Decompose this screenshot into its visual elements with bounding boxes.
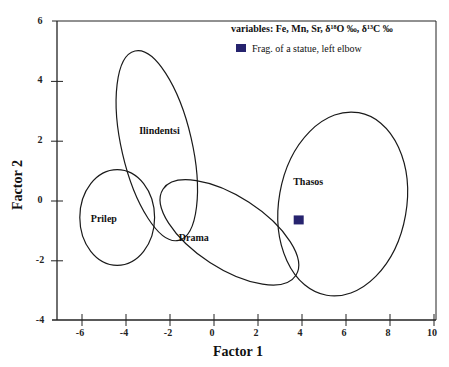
legend-entry-label: Frag. of a statue, left elbow bbox=[252, 43, 362, 54]
y-axis-title: Factor 2 bbox=[10, 160, 25, 210]
legend-marker-square-icon bbox=[236, 44, 246, 52]
x-tick-label: 2 bbox=[254, 327, 259, 338]
group-ellipses: PrilepIlindentsiDramaThasos bbox=[80, 43, 422, 306]
group-label-ilindentsi: Ilindentsi bbox=[139, 125, 180, 136]
x-axis-title: Factor 1 bbox=[213, 344, 263, 359]
group-label-thasos: Thasos bbox=[293, 176, 323, 187]
x-tick-label: -6 bbox=[76, 327, 84, 338]
y-tick-label: 4 bbox=[38, 74, 43, 85]
x-tick-label: 4 bbox=[298, 327, 303, 338]
factor-scatter-chart: -6-4-20246810 6420-2-4 Factor 1 Factor 2… bbox=[0, 0, 449, 367]
x-tick-label: 8 bbox=[386, 327, 391, 338]
statue-fragment-square-marker bbox=[294, 215, 304, 224]
x-axis-ticks: -6-4-20246810 bbox=[76, 314, 437, 338]
y-tick-label: -2 bbox=[36, 254, 44, 265]
y-axis-ticks: 6420-2-4 bbox=[36, 15, 63, 325]
ellipse-drama bbox=[143, 159, 315, 305]
x-tick-label: -4 bbox=[120, 327, 128, 338]
group-label-prilep: Prilep bbox=[91, 213, 118, 224]
x-tick-label: 10 bbox=[427, 327, 437, 338]
ellipse-thasos bbox=[264, 102, 422, 307]
legend-title: variables: Fe, Mn, Sr, δ¹⁸O ‰, δ¹³C ‰ bbox=[231, 23, 393, 34]
ellipse-ilindentsi bbox=[101, 43, 213, 248]
x-tick-label: 0 bbox=[210, 327, 215, 338]
x-tick-label: 6 bbox=[342, 327, 347, 338]
y-tick-label: 0 bbox=[38, 194, 43, 205]
group-label-drama: Drama bbox=[179, 232, 209, 243]
y-tick-label: 2 bbox=[38, 134, 43, 145]
data-points bbox=[294, 215, 304, 224]
legend: variables: Fe, Mn, Sr, δ¹⁸O ‰, δ¹³C ‰ Fr… bbox=[231, 23, 393, 54]
x-tick-label: -2 bbox=[164, 327, 172, 338]
y-tick-label: -4 bbox=[36, 314, 44, 325]
y-tick-label: 6 bbox=[38, 15, 43, 26]
